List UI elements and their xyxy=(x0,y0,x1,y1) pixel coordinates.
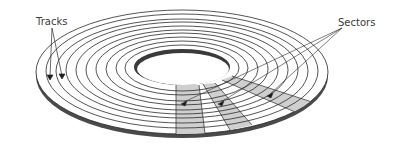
spindle-hole xyxy=(134,49,230,85)
sectors-label: Sectors xyxy=(338,17,375,28)
tracks-label: Tracks xyxy=(36,16,67,27)
